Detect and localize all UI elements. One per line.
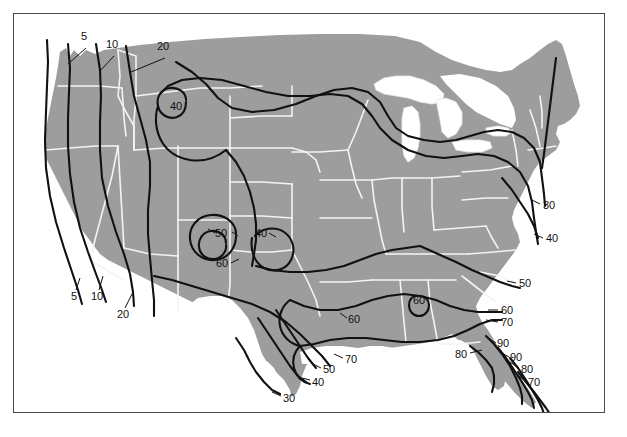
leader-20-sw [125, 292, 133, 308]
contour-label-40-nm: 40 [255, 227, 267, 239]
contour-label-70-la: 70 [345, 353, 357, 365]
map-canvas: 5 10 20 40 5 10 20 50 60 40 30 40 50 70 … [0, 0, 627, 437]
contour-label-80-fl: 80 [521, 363, 533, 375]
contour-map-figure: 5 10 20 40 5 10 20 50 60 40 30 40 50 70 … [0, 0, 627, 437]
contour-label-5-nw: 5 [81, 30, 87, 42]
contour-label-30-ne: 30 [543, 199, 555, 211]
landmass-group [34, 34, 580, 408]
contour-label-90-a: 90 [497, 337, 509, 349]
contour-label-40-se: 40 [546, 232, 558, 244]
lake-erie [452, 140, 492, 152]
contour-label-30-tx: 30 [283, 392, 295, 404]
contour-label-50-se: 50 [519, 277, 531, 289]
contour-label-60-co: 60 [216, 257, 228, 269]
contour-label-60-la: 60 [348, 313, 360, 325]
contour-label-50-co: 50 [215, 227, 227, 239]
contour-label-80-gulf: 80 [455, 348, 467, 360]
contour-label-10-nw: 10 [106, 38, 118, 50]
contour-label-40-mt: 40 [170, 100, 182, 112]
contour-label-20-nw: 20 [157, 40, 169, 52]
contour-label-90-b: 90 [510, 351, 522, 363]
contour-label-40-tx: 40 [312, 376, 324, 388]
contour-label-5-sw: 5 [71, 290, 77, 302]
contour-label-60-se: 60 [501, 304, 513, 316]
contour-label-70-se: 70 [501, 316, 513, 328]
contour-label-70-fl: 70 [528, 376, 540, 388]
contour-label-10-sw: 10 [91, 290, 103, 302]
contour-label-50-tx: 50 [323, 363, 335, 375]
contour-label-20-sw: 20 [117, 308, 129, 320]
contour-label-60-ga: 60 [413, 294, 425, 306]
